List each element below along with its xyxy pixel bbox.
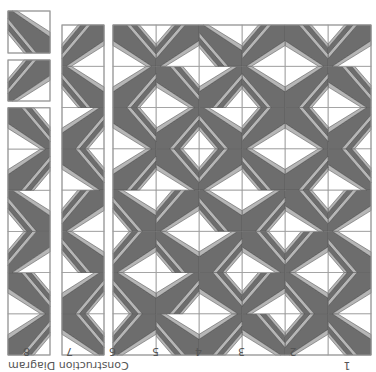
quilt-block	[328, 190, 371, 231]
quilt-block	[242, 149, 285, 190]
main-grid	[113, 25, 371, 355]
quilt-block	[285, 25, 328, 66]
quilt-block	[285, 273, 328, 314]
quilt-block	[8, 108, 50, 149]
quilt-block	[328, 66, 371, 107]
column-label-2: 2	[283, 345, 303, 358]
quilt-block	[8, 190, 50, 231]
quilt-block	[8, 149, 50, 190]
quilt-block	[156, 273, 199, 314]
quilt-block	[199, 231, 242, 272]
quilt-block	[285, 231, 328, 272]
quilt-block	[113, 108, 156, 149]
quilt-block	[328, 273, 371, 314]
quilt-block	[328, 108, 371, 149]
quilt-block	[328, 314, 371, 355]
quilt-block	[62, 108, 104, 149]
quilt-block	[62, 25, 104, 66]
quilt-block-separate	[8, 60, 50, 101]
quilt-block	[199, 149, 242, 190]
quilt-block	[62, 149, 104, 190]
column-label-6: 6	[103, 345, 123, 358]
quilt-block	[242, 25, 285, 66]
quilt-block	[62, 190, 104, 231]
quilt-block	[113, 149, 156, 190]
quilt-block	[8, 273, 50, 314]
quilt-block	[8, 231, 50, 272]
column-label-5: 5	[146, 345, 166, 358]
quilt-block	[113, 190, 156, 231]
quilt-block	[242, 273, 285, 314]
quilt-block	[199, 190, 242, 231]
quilt-block	[328, 149, 371, 190]
column-label-1: 1	[337, 359, 357, 372]
quilt-block	[242, 108, 285, 149]
quilt-block	[328, 25, 371, 66]
quilt-block	[156, 231, 199, 272]
quilt-block	[285, 66, 328, 107]
quilt-block	[62, 231, 104, 272]
quilt-block	[156, 190, 199, 231]
quilt-block	[285, 190, 328, 231]
quilt-block	[156, 25, 199, 66]
quilt-block	[285, 108, 328, 149]
quilt-block	[62, 273, 104, 314]
quilt-block	[242, 66, 285, 107]
column-label-7: 7	[60, 345, 80, 358]
quilt-block	[242, 231, 285, 272]
quilt-block	[285, 149, 328, 190]
quilt-block	[113, 66, 156, 107]
quilt-block	[62, 66, 104, 107]
quilt-block	[156, 66, 199, 107]
quilt-block	[199, 25, 242, 66]
quilt-block	[328, 231, 371, 272]
quilt-block	[113, 231, 156, 272]
quilt-block	[156, 149, 199, 190]
strip-1	[8, 11, 50, 355]
quilt-block	[199, 273, 242, 314]
quilt-block	[113, 273, 156, 314]
quilt-block-separate	[8, 11, 50, 53]
quilt-block	[199, 108, 242, 149]
strip-2	[62, 25, 104, 355]
quilt-block	[113, 25, 156, 66]
quilt-block	[156, 108, 199, 149]
quilt-block	[242, 190, 285, 231]
quilt-block	[199, 66, 242, 107]
column-label-4: 4	[189, 345, 209, 358]
column-label-8: 8	[17, 345, 37, 358]
column-label-3: 3	[232, 345, 252, 358]
